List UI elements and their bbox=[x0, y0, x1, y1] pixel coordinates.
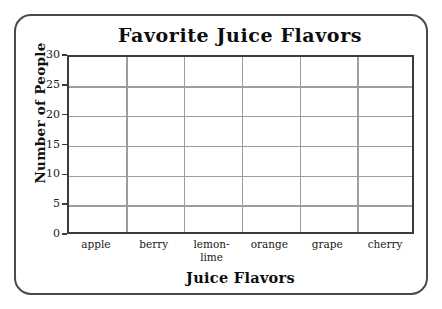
gridline-vertical bbox=[300, 57, 302, 232]
chart-title: Favorite Juice Flavors bbox=[60, 24, 420, 46]
chart-screenshot: Favorite Juice Flavors Number of People … bbox=[0, 0, 442, 309]
y-tick-label-wrap: 5 bbox=[30, 198, 60, 209]
y-tick-label-wrap: 25 bbox=[30, 79, 60, 90]
x-tick-label: grape bbox=[298, 238, 356, 251]
gridline-vertical bbox=[242, 57, 244, 232]
y-tick-label-wrap: 0 bbox=[30, 228, 60, 239]
gridline-horizontal bbox=[69, 205, 412, 207]
x-tick-label-line: lemon- bbox=[183, 238, 241, 251]
y-tick-label: 10 bbox=[34, 168, 60, 179]
x-tick-label-line: lime bbox=[183, 251, 241, 264]
gridline-horizontal bbox=[69, 86, 412, 88]
gridline-vertical bbox=[126, 57, 128, 232]
y-tick-label: 30 bbox=[34, 49, 60, 60]
y-tick-label: 15 bbox=[34, 139, 60, 150]
x-tick-label: lemon-lime bbox=[183, 238, 241, 263]
y-tick-label-wrap: 15 bbox=[30, 139, 60, 150]
y-tick-label-wrap: 10 bbox=[30, 168, 60, 179]
y-tick-label: 20 bbox=[34, 109, 60, 120]
x-tick-label: orange bbox=[241, 238, 299, 251]
x-tick-label: berry bbox=[125, 238, 183, 251]
gridline-horizontal bbox=[69, 176, 412, 178]
x-tick-label: cherry bbox=[356, 238, 414, 251]
y-tick-label-wrap: 30 bbox=[30, 49, 60, 60]
y-tick-label-wrap: 20 bbox=[30, 109, 60, 120]
x-axis-title: Juice Flavors bbox=[67, 269, 414, 286]
gridline-horizontal bbox=[69, 116, 412, 118]
y-tick-label: 25 bbox=[34, 79, 60, 90]
grid-layer bbox=[69, 57, 412, 232]
gridline-vertical bbox=[184, 57, 186, 232]
gridline-horizontal bbox=[69, 146, 412, 148]
y-tick-label: 5 bbox=[34, 198, 60, 209]
gridline-vertical bbox=[357, 57, 359, 232]
y-tick-label: 0 bbox=[34, 228, 60, 239]
plot-area bbox=[67, 55, 414, 234]
x-tick-label: apple bbox=[67, 238, 125, 251]
